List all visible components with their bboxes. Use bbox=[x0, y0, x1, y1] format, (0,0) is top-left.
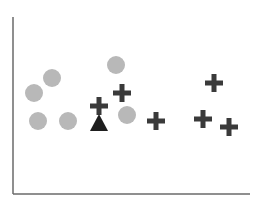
circle-marker-icon bbox=[118, 106, 136, 124]
circle-marker-icon bbox=[25, 84, 43, 102]
markers bbox=[25, 56, 238, 136]
plus-marker-icon bbox=[90, 97, 108, 115]
plus-marker-icon bbox=[113, 84, 131, 102]
plus-marker-icon bbox=[205, 74, 223, 92]
scatter-plot bbox=[0, 0, 257, 199]
plus-marker-icon bbox=[147, 112, 165, 130]
triangle-marker-icon bbox=[90, 114, 108, 131]
plus-marker-icon bbox=[220, 118, 238, 136]
plus-marker-icon bbox=[194, 110, 212, 128]
axes bbox=[13, 17, 250, 194]
circle-marker-icon bbox=[29, 112, 47, 130]
circle-marker-icon bbox=[59, 112, 77, 130]
circle-marker-icon bbox=[43, 69, 61, 87]
circle-marker-icon bbox=[107, 56, 125, 74]
